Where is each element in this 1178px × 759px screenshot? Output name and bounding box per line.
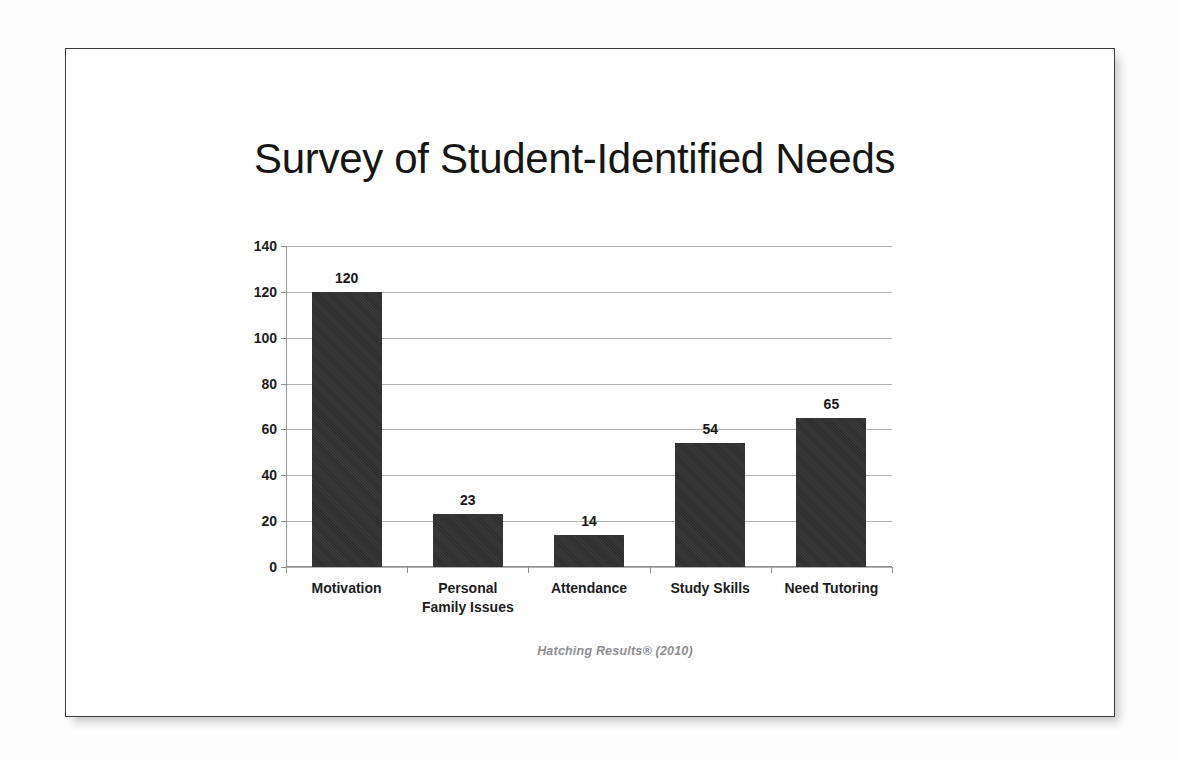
y-tick-mark xyxy=(281,384,287,385)
y-axis-label: 120 xyxy=(254,284,277,300)
gridline xyxy=(286,567,892,568)
y-axis-label: 100 xyxy=(254,330,277,346)
bar xyxy=(675,443,745,567)
x-axis-category-label: Study Skills xyxy=(671,579,750,598)
y-axis-line xyxy=(286,246,287,567)
bar xyxy=(433,514,503,567)
x-axis-label-line: Family Issues xyxy=(422,598,514,617)
x-tick-mark xyxy=(771,567,772,573)
x-axis-category-label: PersonalFamily Issues xyxy=(422,579,514,617)
y-tick-mark xyxy=(281,521,287,522)
plot-area: 020406080100120140 12023145465 Motivatio… xyxy=(286,246,892,567)
y-axis-label: 140 xyxy=(254,238,277,254)
bar xyxy=(796,418,866,567)
y-tick-mark xyxy=(281,429,287,430)
x-tick-mark xyxy=(407,567,408,573)
bar-value-label: 120 xyxy=(335,270,358,286)
x-axis-label-line: Need Tutoring xyxy=(784,579,878,598)
bar-chart: 020406080100120140 12023145465 Motivatio… xyxy=(220,224,1010,694)
attribution-note: Hatching Results® (2010) xyxy=(220,644,1010,658)
bar-value-label: 65 xyxy=(824,396,840,412)
y-tick-mark xyxy=(281,475,287,476)
x-axis-label-line: Attendance xyxy=(551,579,627,598)
x-tick-mark xyxy=(286,567,287,573)
y-axis-label: 0 xyxy=(269,559,277,575)
slide-frame: Survey of Student-Identified Needs 02040… xyxy=(65,48,1115,717)
y-tick-mark xyxy=(281,246,287,247)
bar xyxy=(554,535,624,567)
x-tick-mark xyxy=(650,567,651,573)
y-axis-label: 40 xyxy=(261,467,277,483)
bar-value-label: 23 xyxy=(460,492,476,508)
gridline xyxy=(286,246,892,247)
x-tick-mark xyxy=(892,567,893,573)
x-axis-label-line: Study Skills xyxy=(671,579,750,598)
bar-value-label: 54 xyxy=(702,421,718,437)
x-axis-label-line: Personal xyxy=(422,579,514,598)
y-tick-mark xyxy=(281,338,287,339)
x-axis-category-label: Motivation xyxy=(312,579,382,598)
page-title: Survey of Student-Identified Needs xyxy=(254,135,954,183)
x-axis-category-label: Need Tutoring xyxy=(784,579,878,598)
y-axis-label: 20 xyxy=(261,513,277,529)
y-axis-label: 60 xyxy=(261,421,277,437)
bar-value-label: 14 xyxy=(581,513,597,529)
bar xyxy=(312,292,382,567)
y-tick-mark xyxy=(281,292,287,293)
x-tick-mark xyxy=(528,567,529,573)
x-axis-category-label: Attendance xyxy=(551,579,627,598)
y-axis-label: 80 xyxy=(261,376,277,392)
x-axis-label-line: Motivation xyxy=(312,579,382,598)
